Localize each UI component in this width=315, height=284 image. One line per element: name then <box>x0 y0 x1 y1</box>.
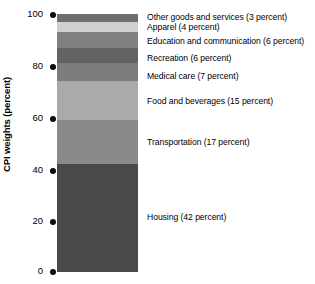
y-tick-label: 0 <box>38 265 43 277</box>
y-tick-80: 80 <box>22 60 56 72</box>
bar-segment-recreation <box>57 48 138 63</box>
y-tick-0: 0 <box>22 265 56 277</box>
y-tick-dot-icon <box>50 168 56 174</box>
y-tick-label: 100 <box>27 8 43 20</box>
y-tick-dot-icon <box>50 116 56 122</box>
bar-segment-medical-care <box>57 63 138 81</box>
bar-segment-apparel <box>57 22 138 32</box>
bar-segment-transportation <box>57 120 138 164</box>
cpi-weights-stacked-bar-chart: CPI weights (percent) 100806040200 Other… <box>0 0 315 284</box>
y-tick-60: 60 <box>22 112 56 124</box>
y-tick-label: 40 <box>32 164 43 176</box>
stacked-bar <box>57 14 138 272</box>
y-tick-label: 60 <box>32 112 43 124</box>
y-tick-20: 20 <box>22 215 56 227</box>
segment-label-apparel: Apparel (4 percent) <box>147 22 220 32</box>
bar-segment-food-and-beverages <box>57 81 138 120</box>
y-tick-dot-icon <box>50 12 56 18</box>
segment-label-education-and-communication: Education and communication (6 percent) <box>147 36 304 46</box>
y-tick-dot-icon <box>50 269 56 275</box>
y-tick-40: 40 <box>22 164 56 176</box>
bar-segment-education-and-communication <box>57 32 138 47</box>
segment-label-other-goods-and-services: Other goods and services (3 percent) <box>147 12 287 22</box>
y-axis-title: CPI weights (percent) <box>0 42 14 172</box>
bar-segment-other-goods-and-services <box>57 14 138 22</box>
y-tick-label: 20 <box>32 215 43 227</box>
bar-segment-housing <box>57 164 138 272</box>
y-tick-label: 80 <box>32 60 43 72</box>
segment-label-housing: Housing (42 percent) <box>147 212 226 222</box>
y-tick-100: 100 <box>22 8 56 20</box>
segment-label-recreation: Recreation (6 percent) <box>147 53 231 63</box>
segment-label-food-and-beverages: Food and beverages (15 percent) <box>147 96 273 106</box>
y-tick-dot-icon <box>50 219 56 225</box>
segment-label-medical-care: Medical care (7 percent) <box>147 71 238 81</box>
y-tick-dot-icon <box>50 64 56 70</box>
segment-label-transportation: Transportation (17 percent) <box>147 137 249 147</box>
